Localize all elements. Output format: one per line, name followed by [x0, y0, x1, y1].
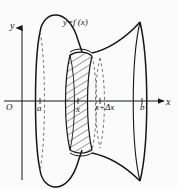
- tick-label-a: a: [37, 104, 42, 113]
- figure-canvas: [0, 0, 177, 189]
- solid-of-revolution-figure: y x O a x x+Δx b y=f (x): [0, 0, 177, 189]
- tick-label-b: b: [140, 103, 145, 112]
- tick-label-x: x: [76, 105, 80, 114]
- origin-label: O: [6, 103, 13, 112]
- curve-label: y=f (x): [63, 18, 88, 27]
- hatched-slab: [66, 49, 97, 156]
- tick-label-x-plus-delta-x: x+Δx: [95, 103, 114, 112]
- y-axis-label: y: [10, 21, 14, 31]
- x-axis-label: x: [166, 97, 170, 107]
